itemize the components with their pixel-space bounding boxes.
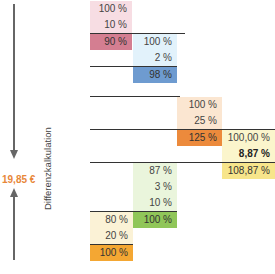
bottom-vertical-line [13,197,15,260]
yellow-cell-1: 100,00 % [222,130,275,146]
cream-cell-result: 100 % [90,245,133,261]
pink-cell-2: 10 % [90,17,132,33]
top-vertical-line [13,4,15,150]
peach-cell-1: 100 % [177,97,222,113]
peach-cell-2: 25 % [177,113,222,129]
green-cell-3: 10 % [133,195,177,211]
blue-cell-1: 100 % [133,34,177,50]
arrow-up-icon [10,188,18,197]
yellow-cell-2: 8,87 % [222,146,275,162]
arrow-down-icon [10,150,18,159]
cream-cell-2: 20 % [90,228,133,244]
peach-cell-result: 125 % [177,130,222,146]
cream-cell-1: 80 % [90,212,133,228]
result-price: 19,85 € [2,174,35,185]
blue-cell-2: 2 % [133,50,177,66]
pink-cell-1: 100 % [90,1,132,17]
divider [90,96,180,97]
blue-cell-result: 98 % [133,67,177,83]
pink-cell-result: 90 % [90,34,132,50]
yellow-cell-result: 108,87 % [222,163,275,179]
vertical-label: Differenzkalkulation [42,127,53,210]
green-cell-result: 100 % [133,212,177,228]
green-cell-2: 3 % [133,179,177,195]
green-cell-1: 87 % [133,163,177,179]
